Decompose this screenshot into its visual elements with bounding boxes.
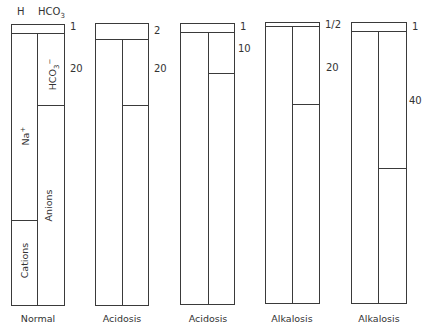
panel-acidosis-1-hco3-ratio: 20 xyxy=(154,63,167,74)
na-sup: + xyxy=(19,127,27,133)
panel-normal-divider xyxy=(37,33,38,306)
panel-acidosis-1-caption: Acidosis xyxy=(82,313,162,324)
panel-normal-hco3-line xyxy=(37,105,65,106)
panel-alkalosis-1-hco3-line xyxy=(292,104,320,105)
panel-alkalosis-1-hco3-ratio: 20 xyxy=(326,62,339,73)
panel-alkalosis-2-hco3-ratio: 40 xyxy=(409,95,422,106)
panel-normal-cations-line xyxy=(11,220,37,221)
panel-normal-hco3-label: HCO3− xyxy=(46,59,61,91)
hco3-header-sub: 3 xyxy=(60,12,64,20)
panel-normal-h-line xyxy=(11,33,65,34)
hco3-header-text: HCO xyxy=(38,6,60,17)
panel-alkalosis-2-caption: Alkalosis xyxy=(339,313,419,324)
panel-normal-caption: Normal xyxy=(0,313,78,324)
hco3-text: HCO xyxy=(47,69,58,90)
panel-normal-cations-label: Cations xyxy=(19,243,30,279)
hco3-header-label: HCO3 xyxy=(38,6,65,20)
panel-acidosis-1-divider xyxy=(122,39,123,306)
panel-alkalosis-1-h-ratio: 1/2 xyxy=(325,19,341,30)
panel-normal-h-ratio: 1 xyxy=(70,21,76,32)
panel-alkalosis-2-hco3-line xyxy=(378,168,407,169)
h-header-label: H xyxy=(17,6,25,17)
panel-normal-hco3-ratio: 20 xyxy=(70,63,83,74)
panel-alkalosis-2-h-line xyxy=(351,31,407,32)
panel-alkalosis-1-divider xyxy=(292,26,293,304)
hco3-sub: 3 xyxy=(53,65,61,69)
panel-acidosis-2-caption: Acidosis xyxy=(168,313,248,324)
panel-alkalosis-2-h-ratio: 1 xyxy=(412,21,418,32)
hco3-sup: − xyxy=(46,59,54,65)
panel-normal-anions-label: Anions xyxy=(43,190,54,222)
panel-acidosis-1-h-ratio: 2 xyxy=(154,25,160,36)
panel-alkalosis-1-caption: Alkalosis xyxy=(252,313,332,324)
panel-alkalosis-2-outer xyxy=(351,22,407,304)
panel-acidosis-2-h-ratio: 1 xyxy=(240,21,246,32)
panel-acidosis-1-hco3-line xyxy=(122,105,149,106)
panel-normal-na-label: Na+ xyxy=(19,127,31,146)
panel-acidosis-2-hco3-ratio: 10 xyxy=(238,43,251,54)
panel-acidosis-2-hco3-line xyxy=(208,73,235,74)
na-text: Na xyxy=(20,133,31,146)
